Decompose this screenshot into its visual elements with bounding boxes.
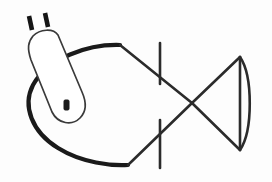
drawing-canvas xyxy=(0,0,272,182)
plug-prong-left xyxy=(29,16,32,30)
line-drawing-svg xyxy=(0,0,272,182)
canvas-background xyxy=(0,0,272,182)
plug-prong-right xyxy=(45,13,48,27)
plug-slot xyxy=(64,100,69,110)
